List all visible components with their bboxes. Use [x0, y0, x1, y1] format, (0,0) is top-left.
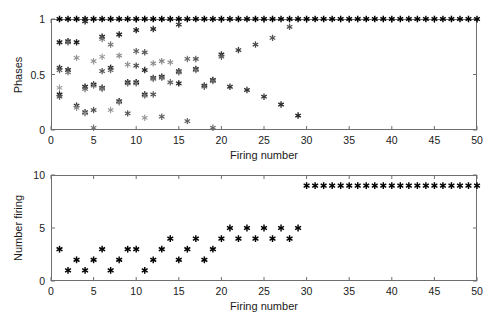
bottom-x-tick-label: 20 — [216, 286, 228, 297]
number-firing-marker — [414, 182, 420, 189]
number-firing-marker — [125, 246, 131, 253]
phases-plot-canvas — [0, 0, 496, 160]
phase-locked-marker — [99, 16, 105, 23]
top-x-tick-label: 50 — [471, 135, 483, 146]
phase-locked-marker — [261, 16, 267, 23]
number-firing-marker — [440, 182, 446, 189]
phase-locked-marker — [133, 16, 139, 23]
phase-locked-marker — [227, 16, 233, 23]
phase-locked-marker — [116, 16, 122, 23]
top-y-tick-label: 0 — [0, 125, 45, 136]
phase-locked-marker — [466, 16, 472, 23]
phase-marker — [227, 84, 233, 90]
phase-marker — [287, 24, 293, 30]
phase-marker — [74, 55, 80, 61]
phase-locked-marker — [380, 16, 386, 23]
phase-marker — [261, 94, 267, 100]
number-firing-plot-canvas — [0, 160, 496, 319]
phase-locked-marker — [253, 16, 259, 23]
phase-locked-marker — [397, 16, 403, 23]
phase-locked-marker — [457, 16, 463, 23]
phase-marker — [57, 94, 63, 100]
number-firing-marker — [423, 182, 429, 189]
number-firing-marker — [278, 225, 284, 232]
phase-marker — [91, 58, 97, 64]
phase-locked-marker — [295, 16, 301, 23]
phase-locked-marker — [304, 16, 310, 23]
phase-marker — [65, 69, 71, 75]
number-firing-marker — [261, 225, 267, 232]
phase-marker — [57, 67, 63, 73]
bottom-x-tick-label: 30 — [301, 286, 313, 297]
phase-marker — [99, 68, 105, 74]
phase-locked-marker — [338, 16, 344, 23]
phase-marker — [82, 18, 88, 24]
number-firing-marker — [329, 182, 335, 189]
phase-locked-marker — [91, 16, 97, 23]
phase-locked-marker — [176, 16, 182, 23]
phase-marker — [57, 39, 63, 45]
phase-marker — [193, 56, 199, 62]
bottom-x-tick-label: 15 — [173, 286, 185, 297]
phase-marker — [99, 36, 105, 42]
number-firing-marker — [116, 256, 122, 263]
bottom-x-tick-label: 50 — [471, 286, 483, 297]
bottom-x-tick-label: 0 — [48, 286, 54, 297]
top-x-tick-label: 45 — [429, 135, 441, 146]
phase-marker — [295, 112, 301, 118]
phase-marker — [253, 41, 259, 47]
bottom-x-tick-label: 45 — [429, 286, 441, 297]
number-firing-y-axis-title: Number firing — [13, 195, 24, 261]
phase-locked-marker — [440, 16, 446, 23]
phase-locked-marker — [167, 16, 173, 23]
phase-marker — [150, 91, 156, 97]
phase-locked-marker — [65, 16, 71, 23]
number-firing-marker — [431, 182, 437, 189]
number-firing-marker — [184, 246, 190, 253]
bottom-y-tick-label: 10 — [0, 170, 45, 181]
phase-marker — [176, 21, 182, 27]
phase-marker — [74, 39, 80, 45]
number-firing-marker — [227, 225, 233, 232]
number-firing-marker — [150, 256, 156, 263]
phase-locked-marker — [423, 16, 429, 23]
number-firing-marker — [108, 267, 114, 274]
phase-locked-marker — [406, 16, 412, 23]
phase-marker — [57, 85, 63, 91]
bottom-x-tick-label: 10 — [130, 286, 142, 297]
number-firing-marker — [253, 235, 259, 242]
phase-marker — [142, 49, 148, 55]
phase-marker — [176, 80, 182, 86]
phase-locked-marker — [184, 16, 190, 23]
phase-marker — [168, 59, 174, 65]
phase-marker — [219, 54, 225, 60]
phases-y-axis-title: Phases — [13, 56, 24, 93]
number-firing-marker — [176, 256, 182, 263]
phase-marker — [150, 26, 156, 32]
phase-locked-marker — [312, 16, 318, 23]
phase-locked-marker — [321, 16, 327, 23]
number-firing-marker — [270, 235, 276, 242]
phase-marker — [150, 60, 156, 66]
number-firing-marker — [244, 225, 250, 232]
phase-locked-marker — [74, 16, 80, 23]
number-firing-marker — [346, 182, 352, 189]
phase-marker — [159, 58, 165, 64]
phase-marker — [108, 41, 114, 47]
phase-marker — [74, 105, 80, 111]
phases-panel: 0510152025303540455000.51 Firing number … — [0, 0, 496, 160]
top-x-tick-label: 35 — [343, 135, 355, 146]
number-firing-marker — [193, 235, 199, 242]
number-firing-marker — [82, 267, 88, 274]
phase-locked-marker — [270, 16, 276, 23]
phase-locked-marker — [244, 16, 250, 23]
number-firing-marker — [142, 267, 148, 274]
top-y-tick-label: 1 — [0, 14, 45, 25]
number-firing-marker — [236, 235, 242, 242]
phase-marker — [142, 115, 148, 121]
number-firing-marker — [99, 246, 105, 253]
phase-locked-marker — [415, 16, 421, 23]
phase-marker — [185, 118, 191, 124]
phase-locked-marker — [355, 16, 361, 23]
phase-locked-marker — [449, 16, 455, 23]
